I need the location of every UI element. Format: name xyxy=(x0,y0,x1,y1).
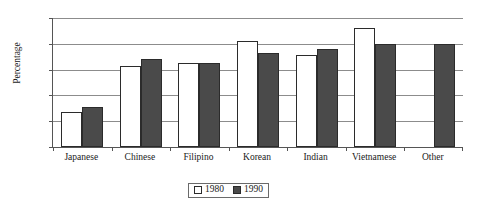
x-axis-tick-mark xyxy=(346,147,347,151)
x-axis-tick-mark xyxy=(170,147,171,151)
bar-groups xyxy=(53,18,463,147)
legend-item-1990: 1990 xyxy=(233,185,263,195)
bar-chart: Percentage 100806040200 JapaneseChineseF… xyxy=(0,0,479,210)
bar-group xyxy=(229,18,288,147)
y-axis-title: Percentage xyxy=(12,18,22,108)
dark-square-swatch-icon xyxy=(233,186,241,194)
bar-1990-chinese xyxy=(141,59,162,147)
bars xyxy=(404,18,463,147)
bar-1980-chinese xyxy=(120,66,141,147)
bar-group xyxy=(170,18,229,147)
bar-1990-korean xyxy=(258,53,279,147)
bar-group xyxy=(346,18,405,147)
x-axis-category-label: Chinese xyxy=(111,152,170,162)
x-axis-tick-mark xyxy=(53,147,54,151)
bar-1990-filipino xyxy=(199,63,220,147)
bar-group xyxy=(287,18,346,147)
plot-area xyxy=(52,18,462,147)
chart-title xyxy=(0,0,479,1)
legend-label-1990: 1990 xyxy=(244,185,263,195)
bar-1980-indian xyxy=(296,55,317,147)
x-axis-category-label: Filipino xyxy=(169,152,228,162)
bar-1990-vietnamese xyxy=(375,44,396,147)
bar-1980-filipino xyxy=(178,63,199,147)
bars xyxy=(287,18,346,147)
bar-1980-japanese xyxy=(61,112,82,147)
gridline xyxy=(53,147,463,148)
x-axis-category-label: Vietnamese xyxy=(345,152,404,162)
bars xyxy=(229,18,288,147)
x-axis-tick-mark xyxy=(404,147,405,151)
bar-group xyxy=(112,18,171,147)
x-axis-category-label: Korean xyxy=(228,152,287,162)
bars xyxy=(346,18,405,147)
bar-1990-indian xyxy=(317,49,338,147)
x-axis-tick-mark xyxy=(229,147,230,151)
bars xyxy=(170,18,229,147)
x-axis-category-label: Japanese xyxy=(52,152,111,162)
x-axis-tick-mark xyxy=(112,147,113,151)
bar-1980-korean xyxy=(237,41,258,147)
bar-1990-japanese xyxy=(82,107,103,147)
legend-label-1980: 1980 xyxy=(205,185,224,195)
legend-item-1980: 1980 xyxy=(194,185,224,195)
x-axis-category-label: Indian xyxy=(286,152,345,162)
x-axis-category-label: Other xyxy=(403,152,462,162)
bars xyxy=(53,18,112,147)
x-axis-category-labels: JapaneseChineseFilipinoKoreanIndianVietn… xyxy=(52,152,462,162)
x-axis-tick-mark xyxy=(287,147,288,151)
legend: 1980 1990 xyxy=(188,183,269,198)
bar-group xyxy=(53,18,112,147)
bar-1990-other xyxy=(434,44,455,147)
bar-group xyxy=(404,18,463,147)
bar-1980-vietnamese xyxy=(354,28,375,147)
bars xyxy=(112,18,171,147)
white-square-swatch-icon xyxy=(194,186,202,194)
x-axis-tick-mark xyxy=(462,147,463,151)
